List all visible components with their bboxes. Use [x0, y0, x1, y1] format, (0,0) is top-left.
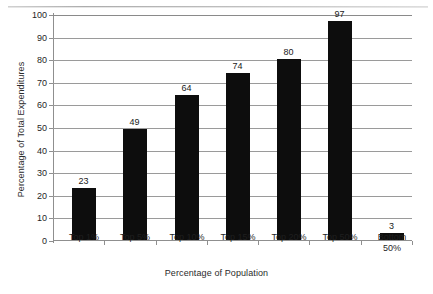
bar-group: 49 — [110, 14, 159, 240]
y-tick-label: 100 — [25, 10, 47, 20]
bar-group: 3 — [367, 14, 416, 240]
bar-value-label: 64 — [162, 83, 211, 93]
y-tick-label: 0 — [25, 236, 47, 246]
x-category-label: Top 5% — [106, 232, 164, 243]
bar — [277, 59, 301, 240]
bar-group: 97 — [315, 14, 364, 240]
y-tick-mark — [49, 60, 53, 61]
bar-value-label: 49 — [110, 117, 159, 127]
bar-group: 23 — [59, 14, 108, 240]
y-tick-mark — [49, 218, 53, 219]
x-category-label: Top 20% — [260, 232, 318, 243]
y-tick-label: 30 — [25, 168, 47, 178]
x-axis-title: Percentage of Population — [0, 268, 433, 278]
x-category-label: Top 50% — [311, 232, 369, 243]
bar — [175, 95, 199, 240]
y-tick-mark — [49, 151, 53, 152]
y-tick-label: 70 — [25, 78, 47, 88]
bar — [328, 21, 352, 240]
y-tick-label: 60 — [25, 100, 47, 110]
y-tick-mark — [49, 105, 53, 106]
y-tick-label: 50 — [25, 123, 47, 133]
bar-group: 80 — [264, 14, 313, 240]
bar — [226, 73, 250, 240]
x-category-label: Top 15% — [209, 232, 267, 243]
bar — [123, 129, 147, 240]
y-tick-label: 80 — [25, 55, 47, 65]
y-tick-mark — [49, 173, 53, 174]
bar-group: 64 — [162, 14, 211, 240]
y-tick-mark — [49, 128, 53, 129]
y-tick-mark — [49, 241, 53, 242]
bar-value-label: 3 — [367, 221, 416, 231]
plot-area: 0102030405060708090100 2349647480973 — [53, 15, 412, 241]
bar-chart-figure: Percentage of Total Expenditures 0102030… — [0, 0, 433, 294]
y-tick-label: 90 — [25, 33, 47, 43]
bar-value-label: 80 — [264, 47, 313, 57]
y-tick-label: 20 — [25, 191, 47, 201]
y-tick-mark — [49, 83, 53, 84]
y-tick-mark — [49, 196, 53, 197]
x-category-label: Top 1% — [55, 232, 113, 243]
bar-value-label: 97 — [315, 9, 364, 19]
x-category-label: Bottom50% — [363, 232, 421, 254]
bar-value-label: 23 — [59, 176, 108, 186]
bar-value-label: 74 — [213, 61, 262, 71]
y-tick-mark — [49, 38, 53, 39]
y-tick-label: 10 — [25, 213, 47, 223]
y-tick-mark — [49, 15, 53, 16]
bar-group: 74 — [213, 14, 262, 240]
y-tick-label: 40 — [25, 146, 47, 156]
x-category-label: Top 10% — [158, 232, 216, 243]
